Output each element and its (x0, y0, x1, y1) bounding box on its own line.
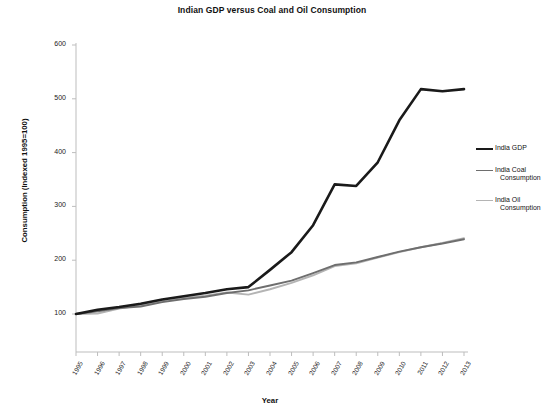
y-tick-label: 500 (36, 94, 66, 101)
y-tick-label: 400 (36, 148, 66, 155)
plot-area (0, 0, 544, 417)
chart-title: Indian GDP versus Coal and Oil Consumpti… (0, 5, 544, 15)
chart-legend: India GDPIndia CoalConsumptionIndia OilC… (476, 144, 544, 226)
legend-label: India CoalConsumption (495, 166, 544, 183)
x-axis-title: Year (76, 396, 464, 405)
legend-swatch-icon (476, 170, 493, 171)
legend-entry-india-coal-consumption[interactable]: India CoalConsumption (476, 166, 544, 183)
legend-label: India GDP (495, 144, 544, 153)
series-line-india-coal-consumption (76, 239, 464, 314)
y-tick-label: 100 (36, 309, 66, 316)
chart-container: Indian GDP versus Coal and Oil Consumpti… (0, 0, 544, 417)
legend-label: India OilConsumption (495, 196, 544, 213)
series-line-india-gdp (76, 89, 464, 314)
y-tick-label: 200 (36, 255, 66, 262)
legend-swatch-icon (476, 200, 493, 201)
y-axis-title: Consumption (Indexed 1995=100) (20, 81, 29, 281)
y-tick-label: 300 (36, 201, 66, 208)
legend-entry-india-oil-consumption[interactable]: India OilConsumption (476, 196, 544, 213)
legend-entry-india-gdp[interactable]: India GDP (476, 144, 544, 153)
legend-swatch-icon (476, 148, 493, 150)
y-tick-label: 600 (36, 40, 66, 47)
